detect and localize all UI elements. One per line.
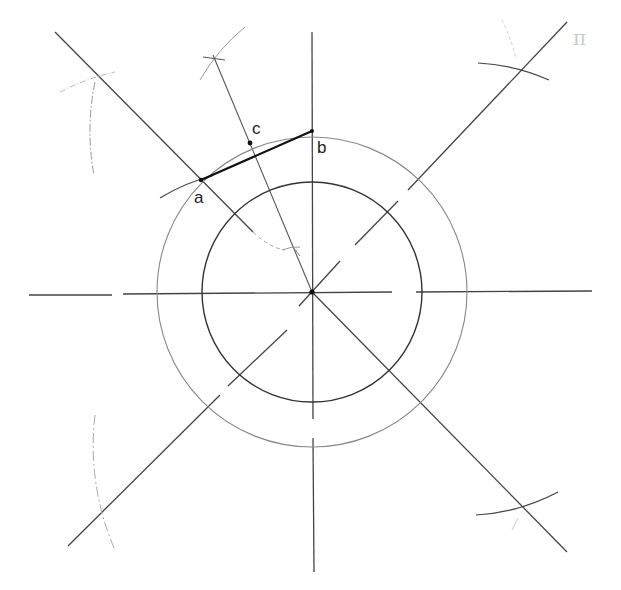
label-b: b bbox=[317, 138, 326, 157]
point-c bbox=[248, 141, 253, 146]
label-a: a bbox=[194, 188, 204, 207]
point-b bbox=[310, 129, 314, 133]
diagram-svg: a b c π bbox=[0, 0, 621, 590]
bisector-line bbox=[213, 55, 312, 292]
point-a bbox=[199, 178, 203, 182]
label-c: c bbox=[252, 119, 261, 138]
diagonal-ne-sw bbox=[68, 22, 567, 546]
corner-mark: π bbox=[573, 26, 586, 50]
construction-dash bbox=[253, 232, 285, 250]
segment-ab bbox=[201, 131, 312, 180]
construction-diagram: a b c π bbox=[0, 0, 621, 590]
center-point bbox=[309, 289, 314, 294]
vertical-axis bbox=[312, 32, 314, 572]
